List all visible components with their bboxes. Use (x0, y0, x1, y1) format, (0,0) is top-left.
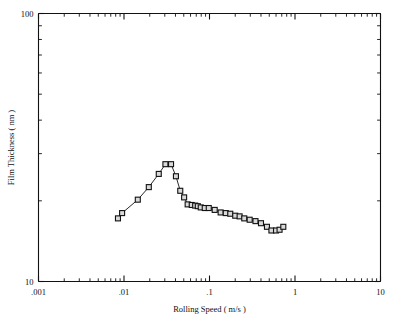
data-point-marker (228, 211, 233, 216)
x-axis-title: Rolling Speed ( m/s ) (173, 304, 246, 314)
data-point-marker (173, 174, 178, 179)
y-tick-label: 100 (21, 9, 34, 19)
x-tick-label: 1 (293, 287, 297, 297)
data-point-marker (218, 210, 223, 215)
data-point-marker (115, 216, 120, 221)
data-point-marker (253, 219, 258, 224)
data-point-marker (281, 224, 286, 229)
data-point-marker (169, 162, 174, 167)
data-point-marker (120, 211, 125, 216)
chart-background (0, 0, 402, 321)
x-tick-label: .001 (31, 287, 46, 297)
chart-figure: .001.01.1110 10100 Rolling Speed ( m/s )… (0, 0, 402, 321)
data-point-marker (163, 162, 168, 167)
log-log-scatter-line-chart: .001.01.1110 10100 Rolling Speed ( m/s )… (0, 0, 402, 321)
data-point-marker (242, 216, 247, 221)
data-point-marker (247, 217, 252, 222)
x-tick-label: .1 (206, 287, 212, 297)
data-point-marker (135, 197, 140, 202)
data-point-marker (156, 171, 161, 176)
data-point-marker (178, 188, 183, 193)
x-tick-label: .01 (119, 287, 130, 297)
data-point-marker (206, 206, 211, 211)
data-point-marker (212, 207, 217, 212)
data-point-marker (182, 195, 187, 200)
y-axis-title: Film Thickness ( nm ) (6, 110, 16, 186)
x-tick-label: 10 (376, 287, 385, 297)
data-point-marker (146, 185, 151, 190)
data-point-marker (258, 221, 263, 226)
y-tick-label: 10 (25, 277, 34, 287)
